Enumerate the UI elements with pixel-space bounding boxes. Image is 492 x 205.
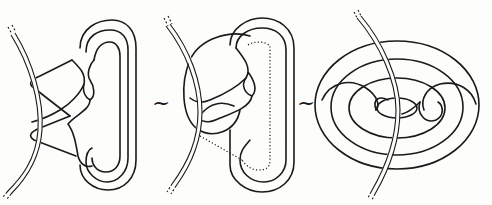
knot-diagrams-canvas: ~ ~ [0,0,492,205]
equivalence-tilde-1: ~ [152,90,170,115]
knot-diagram-3 [315,10,479,200]
knot-diagram-1 [3,20,136,199]
knot-diagram-2 [164,16,294,194]
equivalence-tilde-2: ~ [297,90,315,115]
knot-equivalence-figure: ~ ~ [0,0,492,205]
